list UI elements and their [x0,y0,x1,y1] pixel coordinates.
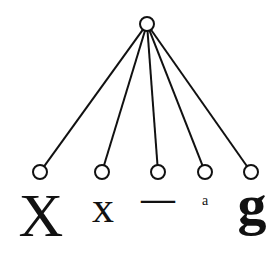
tree-diagram: Xx—ag [0,0,277,253]
labels: Xx—ag [19,172,267,249]
leaf-node-3 [151,165,165,179]
leaf-node-1 [33,165,47,179]
leaf-node-2 [95,165,109,179]
leaf-label-3: — [140,180,176,217]
leaf-label-5: g [238,172,267,237]
edge-5 [151,30,247,167]
edge-3 [148,31,158,165]
nodes [33,17,258,179]
edges [44,30,247,167]
leaf-label-1: X [19,181,64,249]
leaf-label-4: a [202,193,209,208]
root-node [140,17,154,31]
edge-1 [44,30,143,167]
leaf-node-4 [198,165,212,179]
edge-4 [150,31,203,166]
edge-2 [104,31,145,166]
leaf-label-2: x [92,183,114,232]
